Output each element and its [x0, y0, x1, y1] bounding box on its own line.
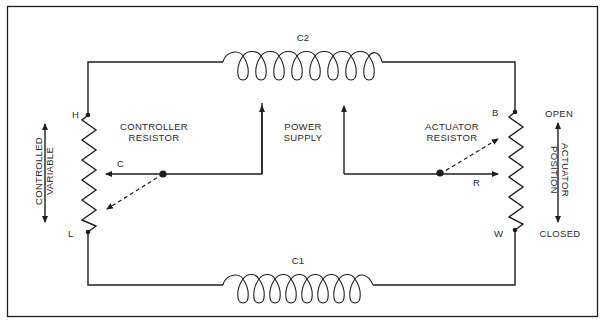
terminal-l-label: L [68, 228, 74, 239]
wiper-c-label: C [117, 158, 124, 169]
controller-resistor [82, 113, 96, 235]
actuator-position-line2: POSITION [549, 146, 560, 194]
coil-c2 [223, 52, 382, 81]
controller-resistor-title-2: RESISTOR [129, 132, 180, 143]
terminal-w-dot [513, 228, 518, 233]
diagram-frame [8, 7, 598, 317]
power-supply-line1: POWER [284, 121, 321, 132]
open-label: OPEN [545, 108, 573, 119]
wiper-c-pivot [159, 170, 166, 177]
terminal-b-dot [513, 110, 518, 115]
actuator-resistor [509, 110, 523, 233]
actuator-position-line1: ACTUATOR [560, 143, 571, 197]
terminal-l-dot [86, 230, 91, 235]
terminal-h-label: H [72, 109, 79, 120]
circuit-diagram: C2 C1 H L CONTROLLER RESISTOR C POWER SU… [0, 0, 608, 326]
coil-c1 [223, 275, 373, 304]
controller-wiper [106, 103, 262, 209]
wiper-r-label: R [473, 177, 480, 188]
actuator-resistor-title-2: RESISTOR [427, 132, 478, 143]
actuator-resistor-title-1: ACTUATOR [425, 121, 479, 132]
wiper-r-pivot [436, 169, 443, 176]
terminal-b-label: B [492, 107, 499, 118]
terminal-h-dot [86, 113, 91, 118]
controlled-variable-line1: CONTROLLED [33, 137, 44, 205]
power-supply-line2: SUPPLY [284, 132, 323, 143]
terminal-w-label: W [494, 228, 503, 239]
top-wire [88, 62, 515, 115]
coil-c2-label: C2 [297, 32, 310, 43]
controlled-variable-line2: VARIABLE [44, 147, 55, 195]
coil-c1-label: C1 [292, 255, 305, 266]
closed-label: CLOSED [540, 228, 581, 239]
controller-resistor-title-1: CONTROLLER [120, 121, 188, 132]
